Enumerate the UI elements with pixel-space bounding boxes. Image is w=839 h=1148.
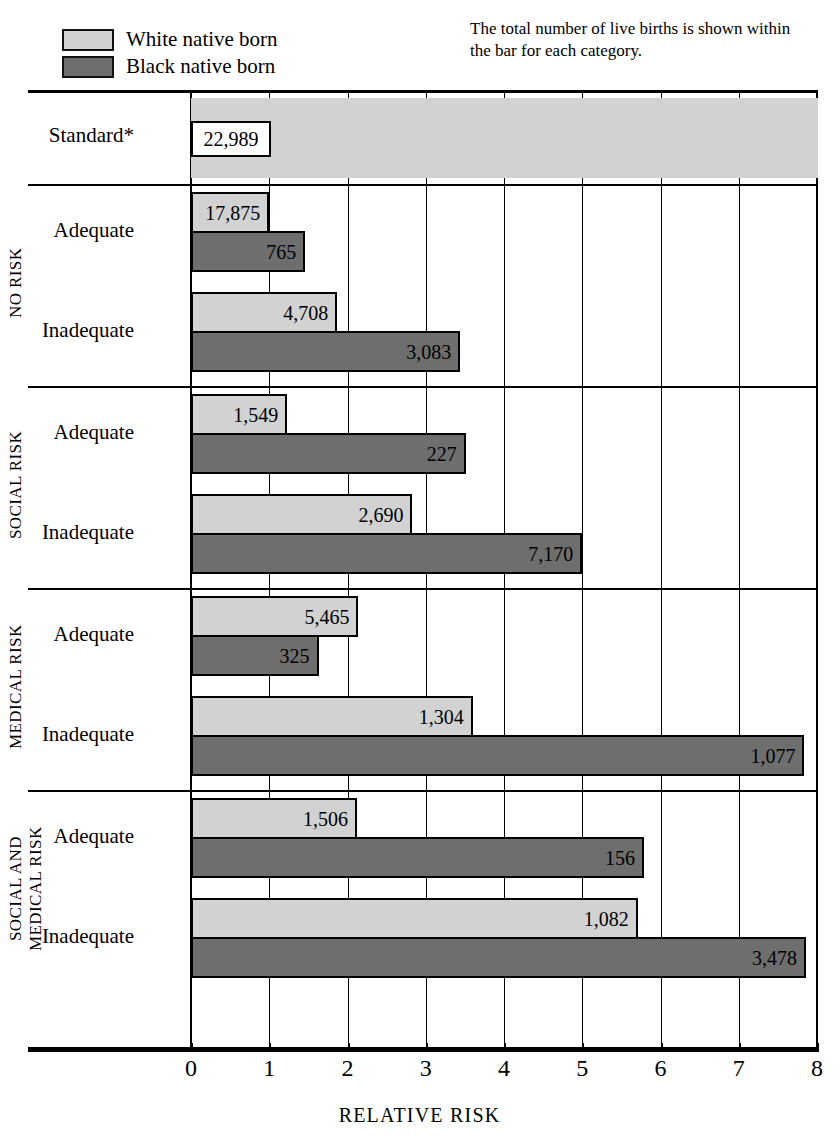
bar-value-label: 7,170 bbox=[528, 544, 580, 564]
standard-value-label: 22,989 bbox=[204, 129, 259, 149]
group-label-0: NO RISK bbox=[6, 183, 26, 383]
x-tick-5 bbox=[582, 1043, 584, 1052]
category-label-adequate: Adequate bbox=[54, 826, 134, 847]
x-tick-label-5: 5 bbox=[562, 1056, 602, 1080]
bar-value-label: 1,304 bbox=[419, 707, 471, 727]
bar-white: 1,082 bbox=[191, 898, 638, 939]
bar-black: 325 bbox=[191, 635, 319, 676]
x-tick-4 bbox=[504, 1043, 506, 1052]
chart-plot-area: 22,98917,8757654,7083,0831,5492272,6907,… bbox=[28, 90, 818, 1050]
group-separator bbox=[28, 184, 818, 186]
bar-white: 5,465 bbox=[191, 596, 358, 637]
x-tick-0 bbox=[191, 1043, 193, 1052]
x-tick-label-3: 3 bbox=[406, 1056, 446, 1080]
legend-swatch-white-icon bbox=[62, 29, 114, 51]
category-label-standard: Standard* bbox=[49, 125, 134, 146]
group-label-line: SOCIAL AND bbox=[6, 789, 26, 989]
legend-label-white: White native born bbox=[126, 29, 278, 50]
group-separator bbox=[28, 386, 818, 388]
category-label-inadequate: Inadequate bbox=[42, 320, 134, 341]
legend-swatch-black-icon bbox=[62, 56, 114, 78]
gridline-7 bbox=[739, 93, 740, 1047]
bar-black: 227 bbox=[191, 433, 466, 474]
bar-value-label: 1,506 bbox=[303, 809, 355, 829]
bar-black: 765 bbox=[191, 231, 305, 272]
bar-value-label: 3,478 bbox=[752, 948, 804, 968]
bar-white: 4,708 bbox=[191, 292, 337, 333]
group-label-2: MEDICAL RISK bbox=[6, 587, 26, 787]
legend-label-black: Black native born bbox=[126, 56, 275, 77]
category-label-adequate: Adequate bbox=[54, 624, 134, 645]
bar-value-label: 3,083 bbox=[406, 342, 458, 362]
x-tick-label-4: 4 bbox=[484, 1056, 524, 1080]
x-tick-label-0: 0 bbox=[171, 1056, 211, 1080]
x-tick-label-2: 2 bbox=[328, 1056, 368, 1080]
bar-black: 7,170 bbox=[191, 533, 582, 574]
x-tick-label-1: 1 bbox=[249, 1056, 289, 1080]
bar-black: 3,478 bbox=[191, 937, 806, 978]
bar-black: 156 bbox=[191, 837, 644, 878]
bar-value-label: 1,082 bbox=[584, 909, 636, 929]
group-separator bbox=[28, 790, 818, 792]
bar-black: 1,077 bbox=[191, 735, 804, 776]
group-separator bbox=[28, 588, 818, 590]
category-label-adequate: Adequate bbox=[54, 220, 134, 241]
gridline-6 bbox=[661, 93, 662, 1047]
bar-black: 3,083 bbox=[191, 331, 460, 372]
x-tick-3 bbox=[426, 1043, 428, 1052]
x-tick-1 bbox=[269, 1043, 271, 1052]
x-tick-label-6: 6 bbox=[641, 1056, 681, 1080]
bar-white: 1,304 bbox=[191, 696, 473, 737]
bar-value-label: 227 bbox=[427, 444, 464, 464]
bar-value-label: 1,077 bbox=[750, 746, 802, 766]
bar-white: 1,549 bbox=[191, 394, 287, 435]
x-tick-6 bbox=[661, 1043, 663, 1052]
x-tick-label-7: 7 bbox=[719, 1056, 759, 1080]
bar-value-label: 17,875 bbox=[205, 203, 267, 223]
standard-reference-band bbox=[191, 98, 818, 178]
category-label-inadequate: Inadequate bbox=[42, 522, 134, 543]
gridline-8 bbox=[816, 93, 818, 1047]
category-label-adequate: Adequate bbox=[54, 422, 134, 443]
bar-white: 2,690 bbox=[191, 494, 412, 535]
group-label-line: MEDICAL RISK bbox=[26, 789, 46, 989]
bar-value-label: 765 bbox=[266, 242, 303, 262]
standard-value-box: 22,989 bbox=[191, 121, 271, 157]
legend-item-black: Black native born bbox=[62, 53, 278, 80]
group-label-1: SOCIAL RISK bbox=[6, 385, 26, 585]
legend-item-white: White native born bbox=[62, 26, 278, 53]
x-tick-label-8: 8 bbox=[797, 1056, 837, 1080]
x-tick-7 bbox=[739, 1043, 741, 1052]
bar-value-label: 2,690 bbox=[358, 505, 410, 525]
bar-value-label: 4,708 bbox=[283, 303, 335, 323]
bar-value-label: 325 bbox=[280, 646, 317, 666]
x-axis-line bbox=[28, 1050, 818, 1052]
bar-value-label: 156 bbox=[605, 848, 642, 868]
x-tick-2 bbox=[348, 1043, 350, 1052]
group-label-3: SOCIAL ANDMEDICAL RISK bbox=[6, 789, 45, 989]
category-label-inadequate: Inadequate bbox=[42, 926, 134, 947]
bar-white: 1,506 bbox=[191, 798, 357, 839]
chart-note: The total number of live births is shown… bbox=[470, 18, 800, 63]
bar-value-label: 5,465 bbox=[304, 607, 356, 627]
legend: White native born Black native born bbox=[62, 26, 278, 80]
bar-white: 17,875 bbox=[191, 192, 269, 233]
category-label-inadequate: Inadequate bbox=[42, 724, 134, 745]
x-tick-8 bbox=[817, 1043, 819, 1052]
x-axis-title: RELATIVE RISK bbox=[0, 1104, 839, 1127]
bar-value-label: 1,549 bbox=[233, 405, 285, 425]
